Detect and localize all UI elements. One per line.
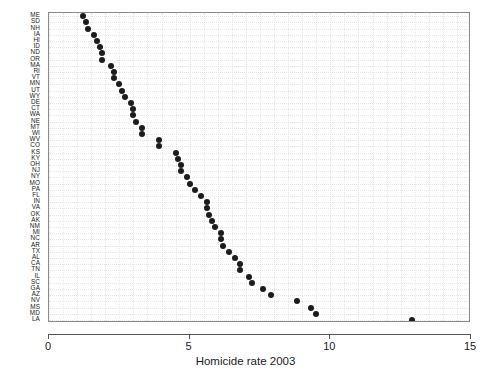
data-point bbox=[192, 187, 198, 193]
x-axis-line bbox=[48, 334, 470, 335]
data-point bbox=[133, 119, 139, 125]
data-point bbox=[156, 137, 162, 143]
data-point bbox=[178, 168, 184, 174]
data-point bbox=[268, 292, 274, 298]
data-point bbox=[97, 44, 103, 50]
data-point bbox=[83, 19, 89, 25]
data-point bbox=[139, 125, 145, 131]
data-point bbox=[119, 88, 125, 94]
data-point bbox=[130, 106, 136, 112]
data-point bbox=[122, 94, 128, 100]
data-point bbox=[175, 156, 181, 162]
data-point bbox=[111, 75, 117, 81]
data-point bbox=[294, 298, 300, 304]
data-point bbox=[260, 286, 266, 292]
data-point bbox=[139, 131, 145, 137]
data-point bbox=[218, 230, 224, 236]
data-point bbox=[111, 69, 117, 75]
data-point bbox=[94, 38, 100, 44]
x-axis-tick bbox=[329, 334, 330, 339]
data-point bbox=[313, 311, 319, 317]
data-point bbox=[108, 63, 114, 69]
data-point bbox=[116, 81, 122, 87]
data-point bbox=[173, 150, 179, 156]
data-point bbox=[237, 261, 243, 267]
x-axis-tick-label: 0 bbox=[45, 340, 51, 353]
x-axis-tick-label: 5 bbox=[186, 340, 192, 353]
x-axis-tick-label: 15 bbox=[464, 340, 476, 353]
data-point bbox=[178, 162, 184, 168]
homicide-rate-dotplot: MESDNHIAHIIDNDORMARIVTMNUTWYDECTWANEMTWI… bbox=[0, 0, 491, 375]
data-point bbox=[99, 57, 105, 63]
x-axis-tick-label: 10 bbox=[323, 340, 335, 353]
data-point bbox=[130, 112, 136, 118]
data-point bbox=[85, 26, 91, 32]
data-point bbox=[249, 280, 255, 286]
data-point bbox=[206, 212, 212, 218]
y-axis-label: LA bbox=[32, 316, 40, 322]
data-point bbox=[156, 143, 162, 149]
data-point bbox=[409, 317, 415, 322]
data-point bbox=[232, 255, 238, 261]
data-point bbox=[212, 224, 218, 230]
y-axis-category-labels: MESDNHIAHIIDNDORMARIVTMNUTWYDECTWANEMTWI… bbox=[0, 12, 44, 322]
data-point bbox=[198, 193, 204, 199]
data-point bbox=[204, 205, 210, 211]
plot-area bbox=[48, 12, 470, 322]
data-point bbox=[187, 181, 193, 187]
data-point bbox=[91, 32, 97, 38]
x-axis-tick bbox=[189, 334, 190, 339]
data-point bbox=[308, 305, 314, 311]
data-point bbox=[209, 218, 215, 224]
data-point bbox=[204, 199, 210, 205]
data-point bbox=[220, 243, 226, 249]
data-point bbox=[99, 50, 105, 56]
data-point bbox=[184, 174, 190, 180]
data-point bbox=[226, 249, 232, 255]
x-axis-title: Homicide rate 2003 bbox=[0, 355, 491, 367]
data-point bbox=[128, 100, 134, 106]
x-axis-tick bbox=[470, 334, 471, 339]
data-point bbox=[218, 236, 224, 242]
data-points-layer bbox=[49, 13, 469, 321]
data-point bbox=[246, 274, 252, 280]
data-point bbox=[237, 267, 243, 273]
data-point bbox=[80, 13, 86, 19]
x-axis-tick bbox=[48, 334, 49, 339]
